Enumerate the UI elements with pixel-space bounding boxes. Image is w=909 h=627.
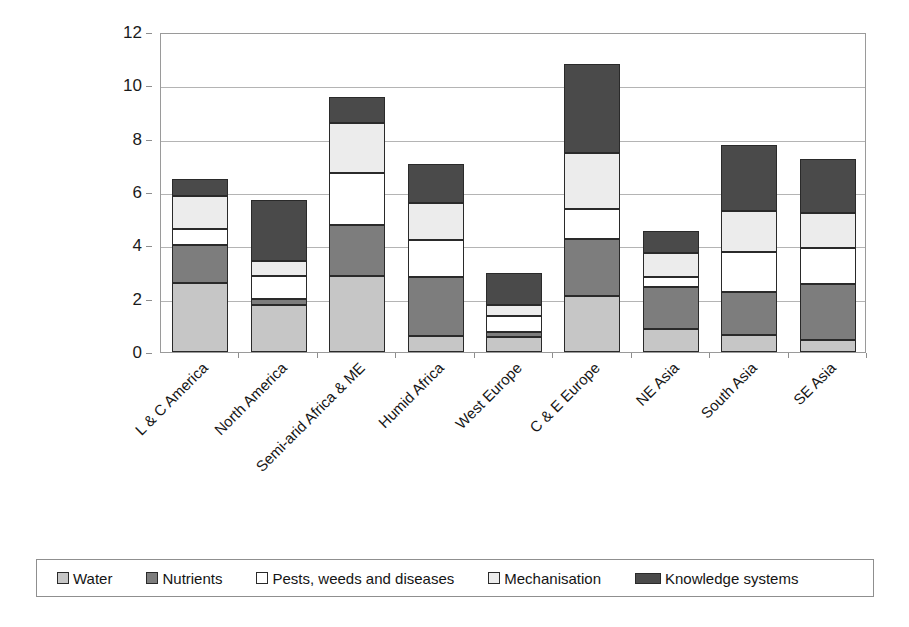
legend-item[interactable]: Water <box>57 570 112 587</box>
bar-segment[interactable] <box>251 200 307 261</box>
bar-segment[interactable] <box>564 209 620 238</box>
legend-swatch-icon <box>488 572 500 584</box>
x-axis-tick-mark <box>631 353 632 358</box>
bar-segment[interactable] <box>643 253 699 277</box>
bar-segment[interactable] <box>486 316 542 332</box>
bar-segment[interactable] <box>329 123 385 174</box>
x-axis-label: West Europe <box>372 359 525 512</box>
bar-segment[interactable] <box>721 145 777 210</box>
bar-segment[interactable] <box>329 173 385 225</box>
x-axis-tick-mark <box>552 353 553 358</box>
x-axis-tick-mark <box>709 353 710 358</box>
bar-segment[interactable] <box>329 276 385 352</box>
bar-group[interactable] <box>172 32 228 352</box>
bar-segment[interactable] <box>721 292 777 335</box>
bar-group[interactable] <box>486 32 542 352</box>
x-axis-tick-mark <box>474 353 475 358</box>
bar-segment[interactable] <box>721 211 777 252</box>
legend-item[interactable]: Nutrients <box>146 570 222 587</box>
x-axis-label: SE Asia <box>685 359 838 512</box>
x-axis-label: South Asia <box>607 359 760 512</box>
bar-segment[interactable] <box>251 305 307 352</box>
bar-segment[interactable] <box>172 229 228 245</box>
y-axis-tick-label: 12 <box>123 23 142 43</box>
bar-segment[interactable] <box>643 231 699 254</box>
x-axis-label: NE Asia <box>528 359 681 512</box>
bar-segment[interactable] <box>564 153 620 209</box>
bar-group[interactable] <box>643 32 699 352</box>
y-axis-tick-label: 6 <box>133 183 142 203</box>
plot-area <box>160 33 866 353</box>
bar-segment[interactable] <box>486 337 542 352</box>
y-axis-tick-label: 0 <box>133 343 142 363</box>
legend-swatch-icon <box>256 572 268 584</box>
bar-segment[interactable] <box>800 248 856 284</box>
bar-segment[interactable] <box>643 287 699 330</box>
bar-segment[interactable] <box>408 164 464 203</box>
y-axis-tick-mark <box>146 193 152 194</box>
y-axis-tick-label: 2 <box>133 290 142 310</box>
bar-segment[interactable] <box>486 273 542 305</box>
legend-item[interactable]: Knowledge systems <box>635 570 798 587</box>
bar-segment[interactable] <box>486 332 542 337</box>
x-axis-label: C & E Europe <box>450 359 603 512</box>
legend-item[interactable]: Pests, weeds and diseases <box>256 570 454 587</box>
bar-segment[interactable] <box>408 277 464 336</box>
bar-segment[interactable] <box>172 179 228 196</box>
y-axis-tick-label: 4 <box>133 236 142 256</box>
bar-segment[interactable] <box>172 196 228 229</box>
x-axis-label: Semi-arid Africa & ME <box>215 359 368 512</box>
y-axis-tick-mark <box>146 300 152 301</box>
bar-segment[interactable] <box>172 283 228 352</box>
bar-segment[interactable] <box>800 159 856 214</box>
x-axis-tick-mark <box>317 353 318 358</box>
y-axis-tick-mark <box>146 140 152 141</box>
bar-group[interactable] <box>251 32 307 352</box>
bar-segment[interactable] <box>800 340 856 352</box>
bar-segment[interactable] <box>251 276 307 299</box>
x-axis-tick-mark <box>238 353 239 358</box>
bar-segment[interactable] <box>408 203 464 240</box>
legend-label: Mechanisation <box>504 570 601 587</box>
bar-segment[interactable] <box>408 336 464 352</box>
bar-group[interactable] <box>721 32 777 352</box>
y-axis-tick-labels: 024681012 <box>100 33 152 353</box>
bar-group[interactable] <box>329 32 385 352</box>
bar-segment[interactable] <box>564 296 620 352</box>
bar-segment[interactable] <box>486 305 542 316</box>
bar-segment[interactable] <box>564 64 620 153</box>
legend-label: Water <box>73 570 112 587</box>
bar-group[interactable] <box>800 32 856 352</box>
bar-segment[interactable] <box>329 97 385 122</box>
y-axis-tick-mark <box>146 246 152 247</box>
y-axis-tick-label: 10 <box>123 76 142 96</box>
bar-group[interactable] <box>408 32 464 352</box>
bars-layer <box>161 34 865 352</box>
legend-swatch-icon <box>635 573 661 584</box>
y-axis-tick-mark <box>146 33 152 34</box>
bar-segment[interactable] <box>251 261 307 276</box>
bar-segment[interactable] <box>800 213 856 248</box>
bar-segment[interactable] <box>172 245 228 282</box>
bar-segment[interactable] <box>643 277 699 286</box>
bar-segment[interactable] <box>408 240 464 277</box>
x-axis-label: L & C America <box>58 359 211 512</box>
legend-label: Knowledge systems <box>665 570 798 587</box>
legend-item[interactable]: Mechanisation <box>488 570 601 587</box>
bar-segment[interactable] <box>329 225 385 276</box>
stacked-bar-chart: Yield gap (tonne/ha) 024681012 L & C Ame… <box>0 0 909 627</box>
bar-segment[interactable] <box>800 284 856 340</box>
bar-segment[interactable] <box>643 329 699 352</box>
chart-legend: WaterNutrientsPests, weeds and diseasesM… <box>36 559 874 597</box>
x-axis-tick-mark <box>788 353 789 358</box>
x-axis-tick-mark <box>866 353 867 358</box>
legend-label: Pests, weeds and diseases <box>272 570 454 587</box>
bar-segment[interactable] <box>721 252 777 292</box>
bar-segment[interactable] <box>721 335 777 352</box>
bar-segment[interactable] <box>564 239 620 296</box>
bar-group[interactable] <box>564 32 620 352</box>
legend-swatch-icon <box>146 572 158 584</box>
bar-segment[interactable] <box>251 299 307 306</box>
x-axis-category-labels: L & C AmericaNorth AmericaSemi-arid Afri… <box>160 353 866 523</box>
y-axis-tick-mark <box>146 86 152 87</box>
